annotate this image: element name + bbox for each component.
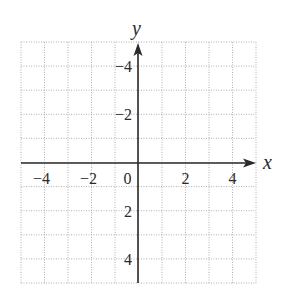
y-tick-label: −4 <box>115 58 132 75</box>
x-axis-label: x <box>262 151 272 173</box>
y-tick-label: 2 <box>124 203 132 220</box>
x-tick-labels: −4−2024 <box>33 170 237 187</box>
coordinate-plane: x y −4−2024 42−2−4 <box>0 0 286 298</box>
y-tick-label: −2 <box>115 106 132 123</box>
x-tick-label: 0 <box>124 170 132 187</box>
y-axis-label: y <box>130 17 141 40</box>
x-tick-label: 2 <box>182 170 190 187</box>
axes <box>21 43 256 283</box>
x-tick-label: −2 <box>80 170 97 187</box>
x-tick-label: −4 <box>33 170 50 187</box>
x-tick-label: 4 <box>229 170 237 187</box>
y-tick-label: 4 <box>124 251 132 268</box>
